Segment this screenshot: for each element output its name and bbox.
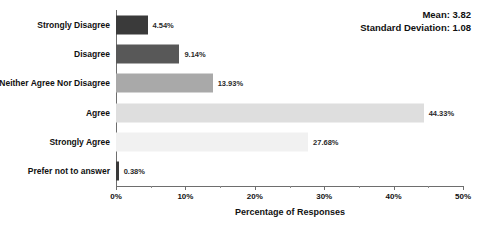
- bar: [116, 103, 424, 122]
- x-axis-minor-tick: [428, 186, 429, 188]
- bar-row: Neither Agree Nor Disagree13.93%: [116, 69, 463, 98]
- x-axis-tick-label: 10%: [177, 192, 193, 201]
- bar: [116, 74, 213, 93]
- bar-value-label: 0.38%: [124, 167, 145, 176]
- bar-chart: Mean: 3.82 Standard Deviation: 1.08 Stro…: [0, 0, 483, 228]
- x-axis-tick-label: 30%: [316, 192, 332, 201]
- bar: [116, 162, 119, 181]
- x-axis-tick: [185, 186, 186, 190]
- plot-area: Strongly Disagree4.54%Disagree9.14%Neith…: [116, 10, 463, 186]
- x-axis-tick-label: 40%: [386, 192, 402, 201]
- x-axis-minor-tick: [220, 186, 221, 188]
- x-axis-tick-label: 50%: [455, 192, 471, 201]
- bar-value-label: 4.54%: [153, 20, 174, 29]
- x-axis-tick: [463, 186, 464, 190]
- x-axis-tick: [394, 186, 395, 190]
- category-label: Strongly Disagree: [37, 20, 110, 30]
- x-axis-tick: [324, 186, 325, 190]
- category-label: Agree: [86, 108, 110, 118]
- bar-row: Agree44.33%: [116, 98, 463, 127]
- bar-row: Strongly Disagree4.54%: [116, 10, 463, 39]
- x-axis-tick: [116, 186, 117, 190]
- x-axis-minor-tick: [151, 186, 152, 188]
- bar: [116, 15, 148, 34]
- bar-value-label: 44.33%: [429, 108, 454, 117]
- x-axis-tick-label: 0%: [110, 192, 122, 201]
- x-axis-minor-tick: [290, 186, 291, 188]
- category-label: Strongly Agree: [49, 137, 110, 147]
- bar-value-label: 9.14%: [184, 49, 205, 58]
- x-axis-minor-tick: [359, 186, 360, 188]
- bar-row: Strongly Agree27.68%: [116, 127, 463, 156]
- x-axis-title: Percentage of Responses: [116, 207, 464, 217]
- x-axis-tick-label: 20%: [247, 192, 263, 201]
- bar: [116, 44, 179, 63]
- category-label: Neither Agree Nor Disagree: [0, 78, 110, 88]
- bar-row: Prefer not to answer0.38%: [116, 157, 463, 186]
- category-label: Prefer not to answer: [28, 166, 110, 176]
- x-axis-tick: [255, 186, 256, 190]
- bar-value-label: 27.68%: [313, 137, 338, 146]
- category-label: Disagree: [74, 49, 110, 59]
- bar-value-label: 13.93%: [218, 79, 243, 88]
- bar: [116, 132, 308, 151]
- bar-row: Disagree9.14%: [116, 39, 463, 68]
